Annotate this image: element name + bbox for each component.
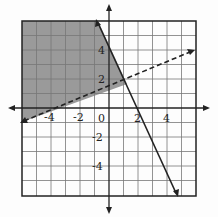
x-axis-left-arrow-icon bbox=[8, 105, 15, 111]
svg-text:0: 0 bbox=[98, 112, 105, 125]
svg-text:-4: -4 bbox=[44, 111, 55, 124]
svg-text:-2: -2 bbox=[73, 111, 84, 124]
graph: -4 -2 0 2 4 4 2 -2 -4 bbox=[0, 0, 218, 217]
x-axis-right-arrow-icon bbox=[203, 105, 210, 111]
svg-text:4: 4 bbox=[98, 44, 105, 57]
shaded-region bbox=[22, 21, 127, 122]
coordinate-plane: -4 -2 0 2 4 4 2 -2 -4 bbox=[0, 0, 218, 217]
svg-text:4: 4 bbox=[163, 112, 170, 125]
y-axis-down-arrow-icon bbox=[106, 207, 112, 214]
svg-text:-2: -2 bbox=[92, 131, 103, 144]
y-axis-up-arrow-icon bbox=[106, 4, 112, 11]
svg-text:2: 2 bbox=[98, 73, 105, 86]
svg-text:-4: -4 bbox=[92, 160, 103, 173]
